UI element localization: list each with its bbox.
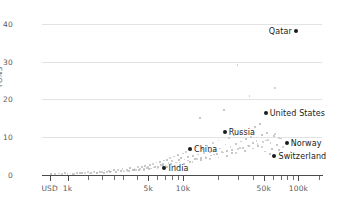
data-point [222, 152, 224, 154]
data-point [150, 168, 152, 170]
highlighted-point-russia[interactable] [223, 130, 227, 134]
point-label-russia: Russia [229, 127, 255, 136]
data-point [166, 159, 168, 161]
point-label-india: India [168, 163, 188, 172]
data-point [209, 158, 211, 160]
highlighted-point-united-states[interactable] [264, 111, 268, 115]
x-tick-mark [137, 176, 138, 180]
highlighted-point-china[interactable] [188, 147, 192, 151]
data-point [269, 153, 271, 155]
scatter-chart: TONS 403020100 QatarUnited StatesRussiaN… [0, 0, 343, 203]
x-axis-tick-labels: USD1k5k10k50k100k [0, 184, 343, 196]
data-point [210, 155, 212, 157]
data-point [205, 157, 207, 159]
data-point [250, 136, 252, 138]
x-tick-mark [88, 176, 89, 180]
gridline-20 [42, 99, 322, 100]
x-tick-label-10k: 10k [176, 184, 191, 193]
point-label-united-states: United States [270, 109, 325, 118]
point-label-norway: Norway [291, 139, 322, 148]
data-point [244, 150, 246, 152]
highlighted-point-norway[interactable] [285, 141, 289, 145]
data-point [133, 169, 135, 171]
x-tick-mark [253, 176, 254, 180]
data-point [199, 117, 201, 119]
data-point [200, 159, 202, 161]
data-point [67, 173, 69, 175]
highlighted-point-switzerland[interactable] [272, 154, 276, 158]
data-point [226, 155, 228, 157]
highlighted-point-india[interactable] [162, 166, 166, 170]
x-tick-mark [287, 176, 288, 180]
data-point [127, 170, 129, 172]
data-point [171, 160, 173, 162]
data-point [257, 145, 259, 147]
y-tick-label-30: 30 [0, 58, 13, 67]
x-tick-mark [319, 176, 320, 180]
data-point [261, 134, 263, 136]
data-point [93, 171, 95, 173]
data-point [218, 157, 220, 159]
x-tick-mark [165, 176, 166, 180]
data-point [225, 144, 227, 146]
data-point [185, 151, 187, 153]
data-point [266, 132, 268, 134]
data-point [219, 148, 221, 150]
data-point [282, 146, 284, 148]
data-point [259, 123, 261, 125]
data-point [103, 172, 105, 174]
data-point [231, 152, 233, 154]
x-tick-mark [123, 176, 124, 180]
data-point [237, 64, 239, 66]
data-point [200, 157, 202, 159]
highlighted-point-qatar[interactable] [294, 29, 298, 33]
data-point [192, 161, 194, 163]
data-point [235, 143, 237, 145]
y-axis-title: TONS [0, 66, 4, 88]
gridline-40 [42, 24, 322, 25]
data-point [153, 167, 155, 169]
data-point [76, 172, 78, 174]
data-point [152, 163, 154, 165]
data-point [252, 142, 254, 144]
data-point [138, 169, 140, 171]
x-tick-mark [293, 176, 294, 180]
data-point [226, 150, 228, 152]
data-point [178, 159, 180, 161]
data-point [248, 145, 250, 147]
data-point [262, 141, 264, 143]
x-tick-label-5k: 5k [144, 184, 154, 193]
data-point [173, 156, 175, 158]
x-tick-mark [264, 176, 265, 181]
plot-area: QatarUnited StatesRussiaNorwayChinaSwitz… [42, 20, 322, 175]
data-point [184, 159, 186, 161]
x-tick-mark [102, 176, 103, 180]
data-point [230, 146, 232, 148]
data-point [228, 137, 230, 139]
y-tick-label-10: 10 [0, 133, 13, 142]
data-point [81, 172, 83, 174]
data-point [278, 149, 280, 151]
x-tick-mark [148, 176, 149, 181]
data-point [270, 142, 272, 144]
x-tick-label-1k: 1k [63, 184, 73, 193]
data-point [271, 148, 273, 150]
data-point [249, 95, 251, 97]
data-point [90, 172, 92, 174]
gridline-30 [42, 62, 322, 63]
y-tick-label-40: 40 [0, 20, 13, 29]
x-tick-label-USD: USD [41, 184, 58, 193]
data-point [54, 173, 56, 175]
x-tick-mark [114, 176, 115, 180]
data-point [231, 149, 233, 151]
x-tick-mark [50, 176, 51, 181]
x-tick-mark [157, 176, 158, 180]
data-point [120, 170, 122, 172]
data-point [205, 156, 207, 158]
data-point [196, 158, 198, 160]
data-point [169, 157, 171, 159]
data-point [223, 109, 225, 111]
data-point [182, 153, 184, 155]
data-point [276, 144, 278, 146]
point-label-switzerland: Switzerland [278, 152, 326, 161]
